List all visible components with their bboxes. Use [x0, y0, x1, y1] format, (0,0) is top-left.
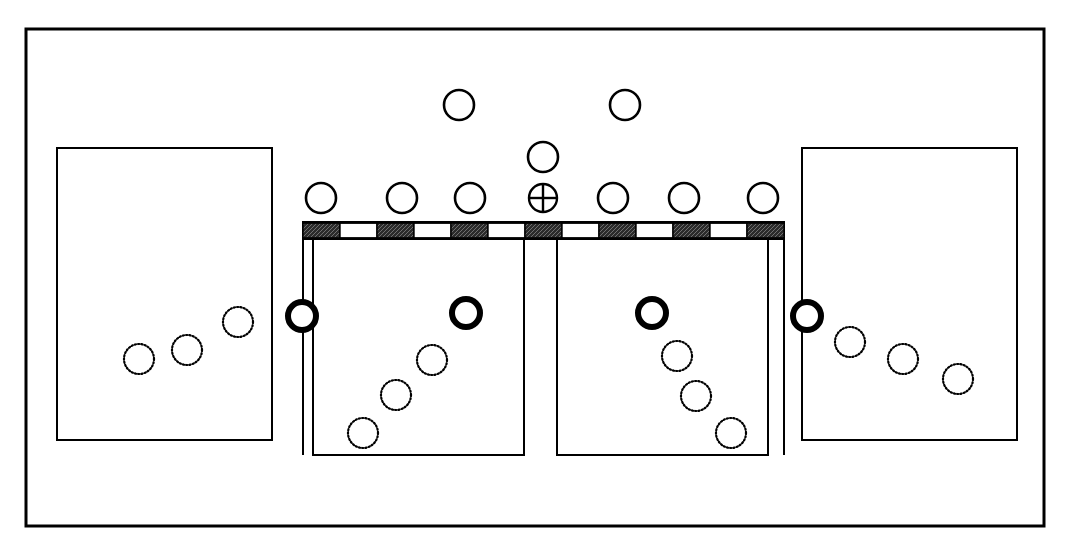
dotted-circle-inner-left-a	[417, 345, 447, 375]
hatched-bar-segment-6	[488, 223, 525, 238]
mid-circle-1	[528, 142, 558, 172]
hatched-bar-segment-11	[673, 223, 710, 238]
dotted-circle-inner-left-b	[381, 380, 411, 410]
row-circle-7	[748, 183, 778, 213]
hatched-bar-segment-4	[414, 223, 451, 238]
dotted-circle-inner-left-c	[348, 418, 378, 448]
dotted-circle-right-c	[943, 364, 973, 394]
hatched-bar-segment-8	[562, 223, 599, 238]
diagram-canvas	[0, 0, 1070, 547]
row-circle-6	[669, 183, 699, 213]
hatched-bar-segment-10	[636, 223, 673, 238]
hatched-bar-segment-5	[451, 223, 488, 238]
bold-circle-far-left	[288, 302, 316, 330]
dotted-circle-inner-right-a	[662, 341, 692, 371]
hatched-bar-segment-1	[303, 223, 340, 238]
hatched-bar-segment-13	[747, 223, 784, 238]
hatched-bar-segment-9	[599, 223, 636, 238]
dotted-circle-left-c	[223, 307, 253, 337]
right-outer-rectangle	[802, 148, 1017, 440]
bold-circle-inner-left	[452, 299, 480, 327]
bold-circle-far-right	[793, 302, 821, 330]
dotted-circle-inner-right-c	[716, 418, 746, 448]
row-circle-1	[306, 183, 336, 213]
row-circle-3	[455, 183, 485, 213]
left-outer-rectangle	[57, 148, 272, 440]
left-inner-rectangle	[313, 238, 524, 455]
row-circle-2	[387, 183, 417, 213]
row-circle-5	[598, 183, 628, 213]
hatched-bar-segment-7	[525, 223, 562, 238]
hatched-bar-segment-2	[340, 223, 377, 238]
diagram-stage	[0, 0, 1070, 547]
dotted-circle-right-b	[888, 344, 918, 374]
outer-frame	[26, 29, 1044, 526]
top-circle-2	[610, 90, 640, 120]
bold-circle-inner-right	[638, 299, 666, 327]
dotted-circle-left-b	[172, 335, 202, 365]
top-circle-1	[444, 90, 474, 120]
hatched-bar-segment-3	[377, 223, 414, 238]
dotted-circle-inner-right-b	[681, 381, 711, 411]
dotted-circle-right-a	[835, 327, 865, 357]
dotted-circle-left-a	[124, 344, 154, 374]
hatched-bar-segment-12	[710, 223, 747, 238]
